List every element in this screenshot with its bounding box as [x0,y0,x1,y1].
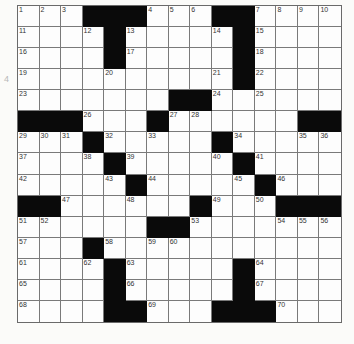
grid-cell[interactable] [319,48,341,69]
grid-cell[interactable] [40,27,62,48]
grid-cell[interactable]: 11 [18,27,40,48]
grid-cell[interactable] [104,217,126,238]
grid-cell[interactable]: 8 [276,6,298,27]
grid-cell[interactable]: 43 [104,175,126,196]
grid-cell[interactable] [40,175,62,196]
grid-cell[interactable] [83,217,105,238]
grid-cell[interactable] [83,301,105,322]
grid-cell[interactable] [61,238,83,259]
grid-cell[interactable] [104,196,126,217]
grid-cell[interactable]: 32 [104,132,126,153]
grid-cell[interactable] [212,48,234,69]
grid-cell[interactable]: 65 [18,280,40,301]
grid-cell[interactable]: 45 [233,175,255,196]
grid-cell[interactable] [255,217,277,238]
grid-cell[interactable] [190,175,212,196]
grid-cell[interactable]: 14 [212,27,234,48]
grid-cell[interactable] [61,48,83,69]
grid-cell[interactable] [276,27,298,48]
grid-cell[interactable]: 61 [18,259,40,280]
grid-cell[interactable]: 41 [255,153,277,174]
grid-cell[interactable]: 31 [61,132,83,153]
grid-cell[interactable] [147,280,169,301]
grid-cell[interactable]: 42 [18,175,40,196]
grid-cell[interactable] [190,301,212,322]
grid-cell[interactable] [61,90,83,111]
grid-cell[interactable] [169,69,191,90]
grid-cell[interactable]: 50 [255,196,277,217]
grid-cell[interactable] [169,259,191,280]
grid-cell[interactable] [255,238,277,259]
grid-cell[interactable] [190,153,212,174]
grid-cell[interactable] [61,217,83,238]
grid-cell[interactable] [126,69,148,90]
grid-cell[interactable] [40,48,62,69]
grid-cell[interactable] [169,132,191,153]
grid-cell[interactable] [169,175,191,196]
grid-cell[interactable] [190,69,212,90]
grid-cell[interactable] [147,153,169,174]
grid-cell[interactable] [319,27,341,48]
grid-cell[interactable] [147,69,169,90]
grid-cell[interactable] [40,280,62,301]
grid-cell[interactable]: 38 [83,153,105,174]
grid-cell[interactable]: 40 [212,153,234,174]
grid-cell[interactable]: 30 [40,132,62,153]
grid-cell[interactable] [212,217,234,238]
grid-cell[interactable] [319,153,341,174]
grid-cell[interactable] [169,280,191,301]
grid-cell[interactable] [83,196,105,217]
grid-cell[interactable] [233,196,255,217]
grid-cell[interactable] [169,196,191,217]
grid-cell[interactable] [212,280,234,301]
grid-cell[interactable] [147,196,169,217]
grid-cell[interactable]: 25 [255,90,277,111]
grid-cell[interactable]: 18 [255,48,277,69]
grid-cell[interactable] [319,69,341,90]
grid-cell[interactable] [255,132,277,153]
grid-cell[interactable]: 36 [319,132,341,153]
grid-cell[interactable] [319,238,341,259]
grid-cell[interactable] [298,301,320,322]
grid-cell[interactable]: 28 [190,111,212,132]
grid-cell[interactable] [61,153,83,174]
grid-cell[interactable]: 10 [319,6,341,27]
grid-cell[interactable] [126,111,148,132]
grid-cell[interactable]: 16 [18,48,40,69]
grid-cell[interactable]: 37 [18,153,40,174]
grid-cell[interactable]: 24 [212,90,234,111]
grid-cell[interactable] [147,27,169,48]
grid-cell[interactable]: 5 [169,6,191,27]
grid-cell[interactable] [319,280,341,301]
grid-cell[interactable]: 59 [147,238,169,259]
grid-cell[interactable]: 67 [255,280,277,301]
grid-cell[interactable] [233,217,255,238]
grid-cell[interactable]: 26 [83,111,105,132]
grid-cell[interactable] [276,259,298,280]
grid-cell[interactable]: 15 [255,27,277,48]
grid-cell[interactable] [298,90,320,111]
grid-cell[interactable]: 35 [298,132,320,153]
grid-cell[interactable] [190,48,212,69]
grid-cell[interactable]: 9 [298,6,320,27]
grid-cell[interactable]: 33 [147,132,169,153]
grid-cell[interactable] [61,280,83,301]
grid-cell[interactable]: 17 [126,48,148,69]
grid-cell[interactable] [276,90,298,111]
grid-cell[interactable] [190,280,212,301]
grid-cell[interactable] [233,90,255,111]
grid-cell[interactable]: 27 [169,111,191,132]
grid-cell[interactable] [83,280,105,301]
grid-cell[interactable]: 2 [40,6,62,27]
grid-cell[interactable] [61,259,83,280]
grid-cell[interactable] [319,301,341,322]
grid-cell[interactable]: 47 [61,196,83,217]
grid-cell[interactable]: 52 [40,217,62,238]
grid-cell[interactable] [83,69,105,90]
grid-cell[interactable]: 53 [190,217,212,238]
grid-cell[interactable] [298,259,320,280]
grid-cell[interactable]: 70 [276,301,298,322]
grid-cell[interactable]: 49 [212,196,234,217]
grid-cell[interactable]: 68 [18,301,40,322]
grid-cell[interactable] [298,280,320,301]
